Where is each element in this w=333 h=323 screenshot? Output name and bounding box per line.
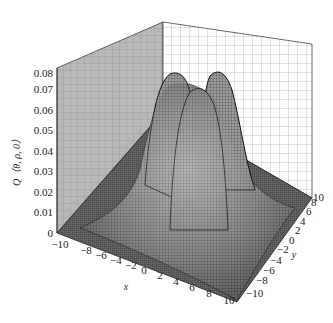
z-tick-label: 0.02 <box>34 186 53 198</box>
z-tick-label: 0.03 <box>34 165 54 177</box>
z-tick-label: 0.01 <box>34 206 53 218</box>
y-tick-label: 10 <box>313 191 325 203</box>
z-axis: 0 0.01 0.02 0.03 0.04 0.05 0.06 0.07 0.0… <box>11 67 57 239</box>
z-tick-label: 0.06 <box>34 104 54 116</box>
x-tick-label: 8 <box>206 287 212 299</box>
y-tick-label: −10 <box>246 287 264 299</box>
z-tick-label: 0.04 <box>34 145 54 157</box>
x-tick-label: 10 <box>224 294 236 306</box>
y-tick-label: −2 <box>277 243 289 255</box>
x-tick-label: −2 <box>125 259 137 271</box>
z-axis-label: Q（θ, ρ, 0） <box>11 134 22 186</box>
surface-plot: 0 0.01 0.02 0.03 0.04 0.05 0.06 0.07 0.0… <box>0 0 333 323</box>
x-tick-label: 0 <box>141 264 147 276</box>
x-tick-label: 2 <box>157 269 163 281</box>
x-tick-label: −6 <box>95 249 107 261</box>
y-tick-label: −4 <box>270 254 282 266</box>
x-tick-label: −8 <box>80 244 92 256</box>
z-tick-label: 0.05 <box>34 124 54 136</box>
y-axis-label: y <box>291 249 297 260</box>
x-tick-label: −4 <box>110 254 122 266</box>
z-tick-label: 0.07 <box>34 83 54 95</box>
x-axis-label: x <box>123 281 129 292</box>
x-tick-label: 4 <box>173 275 179 287</box>
z-tick-label: 0.08 <box>34 67 54 79</box>
x-tick-label: 6 <box>189 281 195 293</box>
x-tick-label: −10 <box>51 238 69 250</box>
